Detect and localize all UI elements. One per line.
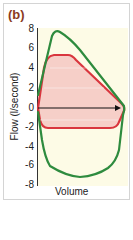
y-tick: 0 [20, 103, 34, 113]
y-tick: 6 [20, 43, 34, 53]
y-tick: 4 [20, 63, 34, 73]
y-axis-label: Flow (l/second) [9, 65, 20, 149]
y-tick: 2 [20, 83, 34, 93]
y-tick: -4 [20, 142, 34, 152]
y-tick: -2 [20, 122, 34, 132]
y-tick: -8 [20, 180, 34, 190]
y-tick: -6 [20, 160, 34, 170]
y-tick: 8 [20, 24, 34, 34]
x-axis-label: Volume [55, 186, 88, 197]
